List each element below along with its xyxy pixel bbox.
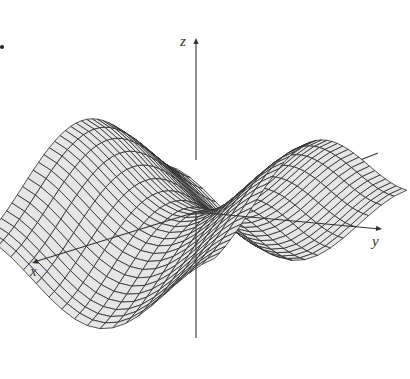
y-axis-label: y	[372, 233, 379, 250]
surface-diagram	[0, 0, 410, 379]
saddle-surface	[0, 119, 407, 329]
z-axis-label: z	[180, 33, 186, 50]
x-axis-label: x	[30, 263, 37, 280]
